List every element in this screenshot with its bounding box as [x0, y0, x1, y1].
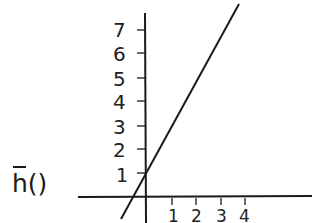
y-tick-labels: 7 6 5 4 3 2 1	[113, 18, 128, 186]
y-axis	[145, 13, 146, 223]
overline-mark	[13, 166, 26, 168]
y-tick-label-2: 2	[113, 138, 126, 162]
x-tick-label-2: 2	[191, 206, 202, 223]
y-tick-label-5: 5	[113, 67, 126, 91]
x-tick-label-1: 1	[168, 206, 179, 223]
x-tick-labels: 1 2 3 4	[168, 206, 250, 223]
y-ticks	[137, 30, 145, 173]
y-tick-label-7: 7	[113, 18, 126, 42]
x-ticks	[172, 198, 245, 205]
y-tick-label-4: 4	[113, 90, 126, 114]
function-label-text: h()	[12, 170, 47, 198]
y-tick-label-3: 3	[113, 115, 126, 139]
x-tick-label-4: 4	[239, 206, 250, 223]
function-label: h()	[12, 166, 60, 202]
y-tick-label-1: 1	[116, 164, 128, 186]
x-tick-label-3: 3	[216, 206, 227, 223]
y-tick-label-6: 6	[113, 42, 126, 66]
function-line	[121, 4, 239, 219]
x-axis	[78, 196, 312, 197]
